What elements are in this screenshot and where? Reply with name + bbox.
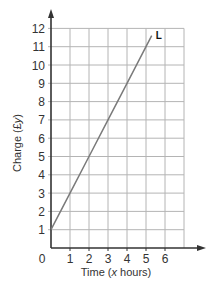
y-tick-label: 1	[38, 223, 45, 237]
y-tick-label: 7	[38, 113, 45, 127]
y-tick-label: 4	[38, 168, 45, 182]
x-tick-label: 0	[39, 252, 46, 266]
x-tick-label: 6	[162, 252, 169, 266]
y-tick-label: 9	[38, 77, 45, 91]
series-lines: L	[51, 30, 162, 230]
x-tick-label: 1	[67, 252, 74, 266]
y-tick-label: 2	[38, 205, 45, 219]
x-tick-label: 3	[105, 252, 112, 266]
y-tick-label: 6	[38, 132, 45, 146]
grid-lines	[48, 28, 184, 248]
x-axis-label: Time (x hours)	[81, 266, 152, 278]
y-tick-label: 3	[38, 187, 45, 201]
x-tick-label: 2	[86, 252, 93, 266]
y-tick-label: 11	[33, 40, 46, 54]
y-tick-label: 12	[32, 22, 46, 36]
y-tick-label: 5	[38, 150, 45, 164]
y-axis-arrow-icon	[48, 9, 54, 18]
y-tick-label: 8	[38, 95, 45, 109]
x-tick-label: 5	[143, 252, 150, 266]
y-axis-label: Charge (£y)	[11, 114, 23, 172]
y-tick-label: 10	[32, 59, 46, 73]
x-axis-arrow-icon	[197, 245, 206, 251]
series-label: L	[156, 30, 162, 41]
line-chart: 0123456123456789101112 L Time (x hours) …	[0, 0, 211, 292]
x-tick-label: 4	[124, 252, 131, 266]
